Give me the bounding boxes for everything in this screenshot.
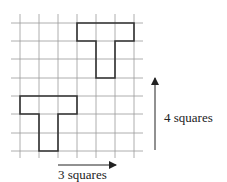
vertical-arrow-label: 4 squares <box>164 110 213 126</box>
horizontal-arrow-label: 3 squares <box>58 167 107 182</box>
translated-t-shape <box>77 23 134 78</box>
translation-diagram <box>0 0 227 182</box>
original-t-shape <box>20 96 77 151</box>
